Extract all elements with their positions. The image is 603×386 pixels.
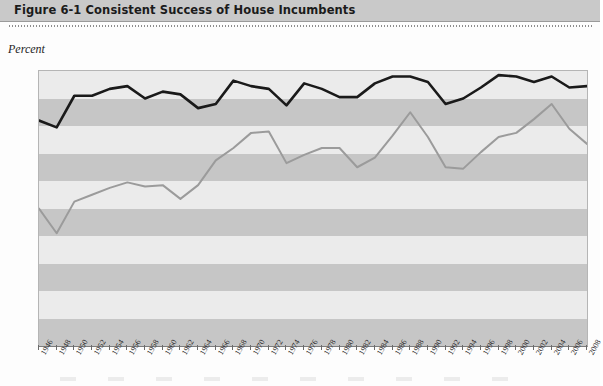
x-tick-mark-2004 <box>551 345 552 350</box>
x-tick-mark-1948 <box>56 345 57 350</box>
cropped-source-line <box>60 377 540 381</box>
x-tick-mark-1996 <box>480 345 481 350</box>
x-tick-mark-1976 <box>303 345 304 350</box>
x-tick-mark-1954 <box>109 345 110 350</box>
x-tick-mark-1998 <box>498 345 499 350</box>
x-tick-mark-1980 <box>339 345 340 350</box>
x-tick-mark-1986 <box>392 345 393 350</box>
page-title: Figure 6-1 Consistent Success of House I… <box>14 3 355 17</box>
series-lines <box>39 71 587 346</box>
x-tick-mark-2002 <box>533 345 534 350</box>
x-tick-mark-1966 <box>215 345 216 350</box>
x-tick-mark-1984 <box>374 345 375 350</box>
x-tick-mark-2008 <box>586 345 587 350</box>
x-tick-mark-1992 <box>445 345 446 350</box>
x-tick-mark-1978 <box>321 345 322 350</box>
figure-header-bar: Figure 6-1 Consistent Success of House I… <box>0 0 600 22</box>
x-tick-mark-1964 <box>197 345 198 350</box>
x-tick-mark-1946 <box>38 345 39 350</box>
x-tick-mark-1958 <box>144 345 145 350</box>
x-tick-mark-1990 <box>427 345 428 350</box>
x-tick-mark-1972 <box>268 345 269 350</box>
x-tick-mark-1952 <box>91 345 92 350</box>
chart-plot-wrapper: 0102030405060708090100 <box>38 70 586 345</box>
x-tick-label-2008: 2008 <box>587 338 603 356</box>
x-tick-mark-1970 <box>250 345 251 350</box>
header-dotted-rule <box>8 25 592 27</box>
y-axis-label: Percent <box>8 42 45 57</box>
chart-plot-area <box>38 70 588 347</box>
x-tick-mark-1960 <box>162 345 163 350</box>
series-line-reelected <box>39 75 587 127</box>
series-line-safe-seats <box>39 104 587 233</box>
